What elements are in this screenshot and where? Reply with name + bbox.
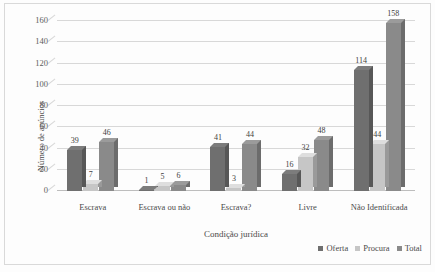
bar-front-face: [210, 147, 225, 191]
plot-area: 02040608010012014016039746Escrava156Escr…: [57, 21, 415, 191]
legend-swatch-icon: [318, 246, 323, 251]
y-axis-tick-label: 140: [35, 36, 48, 46]
bar-value-label: 48: [318, 126, 326, 135]
bar-group: 11444158Não Identificada: [343, 21, 415, 191]
bar-side-face: [369, 66, 373, 187]
bar-value-label: 6: [176, 171, 180, 180]
bar-front-face: [354, 70, 369, 191]
bar-value-label: 158: [387, 9, 399, 18]
bar-value-label: 44: [246, 130, 254, 139]
bar-oferta[interactable]: 39: [67, 150, 82, 191]
x-axis-category-label: Escrava ou não: [138, 202, 190, 212]
bar-side-face: [401, 19, 405, 187]
bar-top-face: [139, 186, 158, 190]
y-axis-title: Número de anúncios: [36, 101, 46, 171]
y-axis-tick-label: 80: [40, 100, 49, 110]
bar-cluster: 39746: [57, 21, 129, 191]
x-axis-category-label: Escrava: [79, 202, 106, 212]
x-axis-category-label: Não Identificada: [351, 202, 408, 212]
y-axis-tick-label: 40: [40, 143, 49, 153]
bar-value-label: 5: [160, 172, 164, 181]
bar-side-face: [225, 143, 229, 187]
bar-cluster: 156: [129, 21, 201, 191]
bar-group: 156Escrava ou não: [129, 21, 201, 191]
bar-front-face: [67, 150, 82, 191]
bar-side-face: [257, 140, 261, 187]
legend-label: Procura: [363, 243, 389, 253]
bar-oferta[interactable]: 114: [354, 70, 369, 191]
bar-procura[interactable]: 3: [226, 188, 241, 191]
x-axis-title: Condição jurídica: [57, 229, 415, 239]
legend-item-procura[interactable]: Procura: [355, 243, 389, 253]
bar-value-label: 16: [286, 160, 294, 169]
y-axis-tick-label: 0: [44, 185, 48, 195]
chart-legend: OfertaProcuraTotal: [318, 243, 422, 253]
bar-oferta[interactable]: 16: [282, 174, 297, 191]
bar-value-label: 39: [71, 136, 79, 145]
bar-value-label: 114: [355, 56, 367, 65]
bar-value-label: 1: [144, 176, 148, 185]
bar-front-face: [226, 188, 241, 191]
bar-side-face: [385, 140, 389, 187]
bar-side-face: [329, 136, 333, 187]
legend-swatch-icon: [397, 246, 402, 251]
bar-cluster: 11444158: [343, 21, 415, 191]
y-axis-tick-label: 120: [35, 58, 48, 68]
bar-group: 163248Livre: [272, 21, 344, 191]
x-axis-category-label: Livre: [298, 202, 316, 212]
y-axis-tick-label: 160: [35, 15, 48, 25]
legend-item-total[interactable]: Total: [397, 243, 422, 253]
bar-side-face: [114, 138, 118, 187]
bar-group: 39746Escrava: [57, 21, 129, 191]
legend-label: Total: [405, 243, 422, 253]
bar-oferta[interactable]: 41: [210, 147, 225, 191]
chart-figure: Número de anúncios Condição jurídica 020…: [0, 0, 435, 272]
y-axis-tick-label: 60: [40, 121, 49, 131]
x-axis-category-label: Escrava?: [221, 202, 252, 212]
bar-oferta[interactable]: 1: [139, 190, 154, 192]
bar-value-label: 46: [103, 128, 111, 137]
bar-side-face: [313, 153, 317, 187]
legend-swatch-icon: [355, 246, 360, 251]
bar-cluster: 163248: [272, 21, 344, 191]
bar-value-label: 7: [89, 170, 93, 179]
bar-value-label: 44: [373, 130, 381, 139]
y-axis-tick-label: 20: [40, 164, 49, 174]
bar-side-face: [82, 146, 86, 187]
bar-front-face: [282, 174, 297, 191]
legend-item-oferta[interactable]: Oferta: [318, 243, 348, 253]
y-axis-tick-label: 100: [35, 79, 48, 89]
bar-cluster: 41344: [200, 21, 272, 191]
bar-value-label: 41: [214, 133, 222, 142]
legend-label: Oferta: [326, 243, 348, 253]
bar-value-label: 32: [302, 143, 310, 152]
bar-group: 41344Escrava?: [200, 21, 272, 191]
bar-value-label: 3: [232, 174, 236, 183]
